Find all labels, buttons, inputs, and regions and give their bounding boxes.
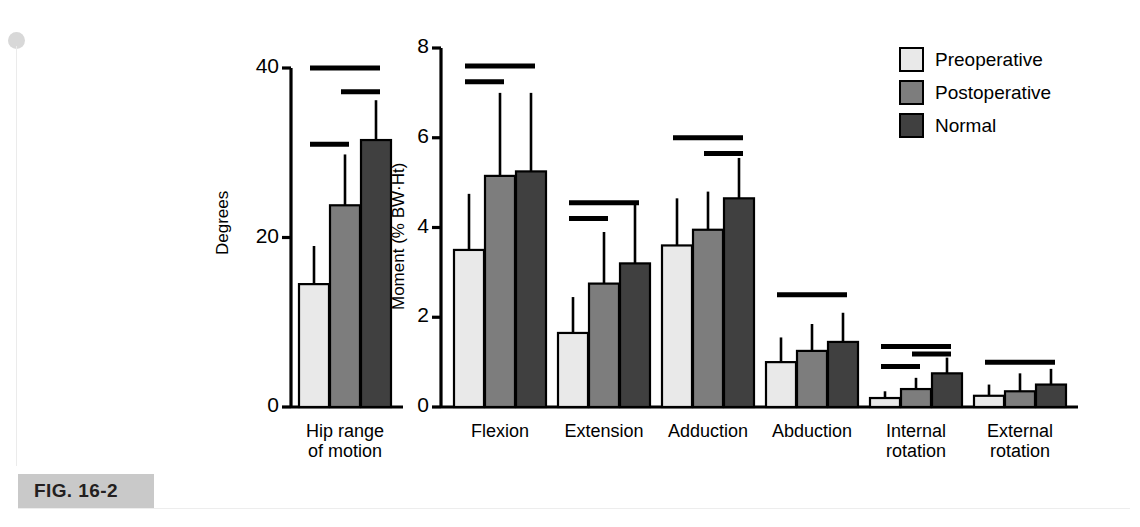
bar-preoperative-hip-range-of-motion <box>299 284 329 407</box>
bar-postoperative-external-rotation <box>1005 391 1035 407</box>
legend-swatch-postoperative <box>899 80 924 105</box>
x-category-label-line: External <box>955 421 1085 441</box>
bar-normal-internal-rotation <box>932 373 962 407</box>
bar-postoperative-extension <box>589 284 619 407</box>
bar-normal-external-rotation <box>1036 385 1066 407</box>
bar-postoperative-adduction <box>693 230 723 407</box>
legend-swatch-preoperative <box>899 47 924 72</box>
page-bottom-rule <box>18 508 1130 509</box>
x-category-label-line: rotation <box>955 441 1085 461</box>
bar-postoperative-abduction <box>797 351 827 407</box>
bar-preoperative-extension <box>558 333 588 407</box>
y-axis-title-left: Degrees <box>213 191 233 255</box>
bar-normal-adduction <box>724 198 754 407</box>
x-category-label-line: Hip range <box>280 421 410 441</box>
bar-postoperative-internal-rotation <box>901 389 931 407</box>
y-tick-label-left: 0 <box>221 393 279 417</box>
bar-normal-hip-range-of-motion <box>361 140 391 407</box>
bar-preoperative-adduction <box>662 245 692 407</box>
y-tick-label-right: 6 <box>371 124 429 148</box>
x-category-label-external-rotation: Externalrotation <box>955 421 1085 461</box>
legend-label-preoperative: Preoperative <box>935 49 1043 71</box>
legend-item: Postoperative <box>899 76 1051 109</box>
bar-preoperative-flexion <box>454 250 484 407</box>
legend-item: Preoperative <box>899 43 1051 76</box>
bar-postoperative-hip-range-of-motion <box>330 205 360 407</box>
y-tick-label-right: 8 <box>371 34 429 58</box>
bar-normal-extension <box>620 263 650 407</box>
figure-container: 02040DegreesHip rangeof motion02468Momen… <box>0 0 1140 527</box>
x-category-label-hip-range-of-motion: Hip rangeof motion <box>280 421 410 461</box>
legend-swatch-normal <box>899 113 924 138</box>
bar-preoperative-abduction <box>766 362 796 407</box>
bar-normal-flexion <box>516 171 546 407</box>
bar-normal-abduction <box>828 342 858 407</box>
legend: Preoperative Postoperative Normal <box>899 43 1051 142</box>
figure-caption-text: FIG. 16-2 <box>34 480 118 502</box>
bar-postoperative-flexion <box>485 176 515 407</box>
y-axis-title-right: Moment (% BW·Ht) <box>389 163 409 310</box>
x-category-label-line: of motion <box>280 441 410 461</box>
y-tick-label-right: 0 <box>371 393 429 417</box>
y-tick-label-left: 40 <box>221 54 279 78</box>
legend-label-postoperative: Postoperative <box>935 82 1051 104</box>
bar-preoperative-internal-rotation <box>870 398 900 407</box>
legend-item: Normal <box>899 109 1051 142</box>
bar-preoperative-external-rotation <box>974 396 1004 407</box>
legend-label-normal: Normal <box>935 115 996 137</box>
